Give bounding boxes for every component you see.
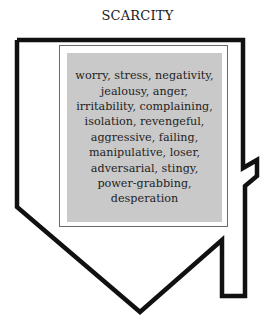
trait-line: isolation, revengeful, xyxy=(85,115,205,128)
trait-line: jealousy, anger, xyxy=(101,85,188,98)
trait-line: manipulative, loser, xyxy=(89,146,200,159)
trait-line: irritability, complaining, xyxy=(76,100,213,113)
trait-line: worry, stress, negativity, xyxy=(75,69,213,82)
trait-line: desperation xyxy=(111,192,178,205)
trait-line: adversarial, stingy, xyxy=(91,162,198,175)
trait-line: power-grabbing, xyxy=(97,177,191,190)
scarcity-traits-text: worry, stress, negativity, jealousy, ang… xyxy=(73,68,215,207)
trait-line: aggressive, failing, xyxy=(91,131,199,144)
scarcity-traits-box: worry, stress, negativity, jealousy, ang… xyxy=(67,53,222,222)
